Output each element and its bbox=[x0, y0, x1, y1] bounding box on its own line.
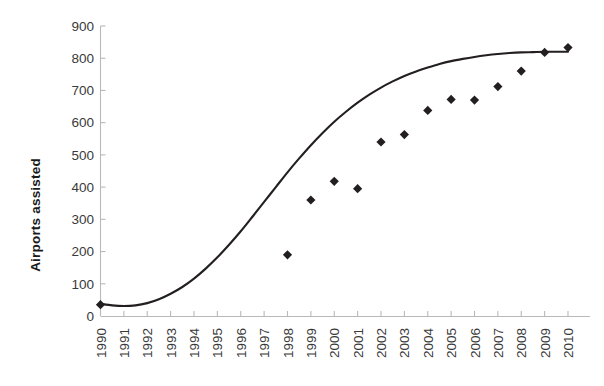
x-tick-label: 2001 bbox=[351, 328, 366, 358]
y-tick-label: 400 bbox=[71, 180, 94, 195]
x-tick-label: 1999 bbox=[304, 328, 319, 358]
x-tick-label: 2008 bbox=[514, 328, 529, 358]
x-tick-label: 1998 bbox=[281, 328, 296, 358]
x-tick-label: 2002 bbox=[374, 328, 389, 358]
data-point-markers bbox=[96, 43, 573, 309]
data-point-marker bbox=[400, 130, 409, 139]
y-axis-title: Airports assisted bbox=[28, 158, 43, 272]
x-axis-tick-labels: 1990199119921993199419951996199719981999… bbox=[94, 328, 577, 359]
x-tick-label: 2006 bbox=[468, 328, 483, 358]
x-tick-label: 2000 bbox=[327, 328, 342, 358]
x-tick-label: 1997 bbox=[257, 328, 272, 358]
y-tick-label: 200 bbox=[71, 244, 94, 259]
x-tick-label: 1991 bbox=[117, 328, 132, 358]
y-tick-label: 700 bbox=[71, 83, 94, 98]
x-tick-label: 2005 bbox=[444, 328, 459, 358]
y-tick-label: 300 bbox=[71, 212, 94, 227]
x-tick-label: 2010 bbox=[561, 328, 576, 358]
data-point-marker bbox=[447, 95, 456, 104]
y-tick-label: 600 bbox=[71, 115, 94, 130]
data-point-marker bbox=[306, 195, 315, 204]
y-tick-label: 100 bbox=[71, 277, 94, 292]
y-tick-label: 900 bbox=[71, 19, 94, 34]
x-tick-label: 2004 bbox=[421, 328, 436, 359]
x-tick-label: 1990 bbox=[94, 328, 109, 358]
y-axis-title-group: Airports assisted bbox=[28, 158, 43, 272]
y-axis-tick-marks bbox=[101, 26, 106, 284]
x-tick-label: 1993 bbox=[164, 328, 179, 358]
y-tick-label: 500 bbox=[71, 148, 94, 163]
x-tick-label: 1992 bbox=[140, 328, 155, 358]
x-tick-label: 1994 bbox=[187, 328, 202, 359]
x-tick-label: 2003 bbox=[397, 328, 412, 358]
y-axis-tick-labels: 0100200300400500600700800900 bbox=[71, 19, 94, 324]
data-point-marker bbox=[493, 82, 502, 91]
data-point-marker bbox=[470, 96, 479, 105]
y-tick-label: 800 bbox=[71, 51, 94, 66]
data-point-marker bbox=[330, 177, 339, 186]
airports-assisted-scatter-chart: Airports assisted 0100200300400500600700… bbox=[0, 0, 604, 386]
chart-container: Airports assisted 0100200300400500600700… bbox=[0, 0, 604, 386]
data-point-marker bbox=[540, 48, 549, 57]
x-tick-label: 2009 bbox=[538, 328, 553, 358]
data-point-marker bbox=[517, 67, 526, 76]
y-tick-label: 0 bbox=[86, 309, 94, 324]
x-tick-label: 1996 bbox=[234, 328, 249, 358]
x-tick-label: 2007 bbox=[491, 328, 506, 358]
data-point-marker bbox=[376, 137, 385, 146]
x-tick-label: 1995 bbox=[210, 328, 225, 358]
data-point-marker bbox=[423, 106, 432, 115]
x-axis-tick-marks bbox=[101, 311, 569, 316]
data-point-marker bbox=[353, 184, 362, 193]
data-point-marker bbox=[283, 250, 292, 259]
data-point-marker bbox=[96, 300, 105, 309]
